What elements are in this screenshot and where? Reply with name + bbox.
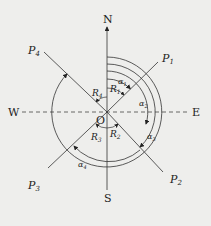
- ray-p4: [44, 52, 107, 112]
- svg-text:R4: R4: [91, 88, 103, 99]
- label-alpha1: α1: [118, 77, 127, 87]
- svg-text:P3: P3: [27, 179, 40, 193]
- label-r4: R4: [91, 88, 103, 99]
- svg-text:P4: P4: [27, 44, 40, 58]
- label-origin: O: [96, 114, 105, 127]
- label-p4: P4: [27, 44, 40, 58]
- label-p2: P2: [169, 173, 182, 187]
- diagram-svg: N S W E O P1 P2 P3 P4 R1 R2 R3 R4: [0, 0, 211, 226]
- arc-r2: [107, 124, 118, 128]
- svg-text:α1: α1: [118, 77, 127, 87]
- label-r2: R2: [109, 129, 121, 140]
- label-p1: P1: [161, 52, 174, 66]
- label-alpha3: α3: [147, 132, 156, 142]
- label-west: W: [8, 106, 20, 119]
- label-p3: P3: [27, 179, 40, 193]
- label-r3: R3: [90, 132, 102, 143]
- svg-text:P2: P2: [169, 173, 182, 187]
- svg-text:P1: P1: [161, 52, 174, 66]
- svg-text:R2: R2: [109, 129, 121, 140]
- svg-text:α3: α3: [147, 132, 156, 142]
- label-alpha4: α4: [78, 160, 87, 170]
- label-south: S: [104, 192, 112, 205]
- label-north: N: [103, 13, 113, 26]
- bearing-azimuth-diagram: N S W E O P1 P2 P3 P4 R1 R2 R3 R4: [0, 0, 211, 226]
- svg-text:R3: R3: [90, 132, 102, 143]
- label-east: E: [192, 106, 200, 119]
- svg-text:α4: α4: [78, 160, 87, 170]
